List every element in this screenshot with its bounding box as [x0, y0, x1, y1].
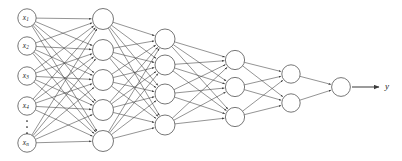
connection-edge — [36, 46, 91, 49]
connection-edge — [172, 46, 228, 109]
connection-edge — [174, 92, 226, 120]
ellipsis-dot — [26, 126, 28, 128]
connection-edge — [33, 28, 95, 99]
connection-edge — [35, 115, 92, 140]
neuron-circle — [93, 40, 114, 61]
neuron-circle — [332, 78, 351, 97]
neuron-circle — [155, 84, 175, 104]
connection-edge — [110, 74, 158, 133]
connection-edge — [175, 68, 225, 84]
neuron-circle — [93, 70, 114, 91]
connection-edge — [32, 29, 97, 135]
ellipsis-dot — [26, 132, 28, 134]
neuron-node — [225, 50, 244, 69]
connection-edge — [35, 50, 92, 76]
connection-edge — [175, 61, 224, 65]
connection-edge — [112, 56, 156, 88]
neuron-node — [93, 9, 114, 30]
neural-network-canvas: x1x2x3x4xn y — [0, 0, 402, 161]
connection-edge — [244, 105, 281, 114]
connection-edge — [300, 90, 331, 100]
neuron-node — [155, 115, 175, 135]
neuron-node — [93, 40, 114, 61]
neuron-node: x1 — [18, 9, 36, 27]
output-label: y — [384, 81, 389, 91]
ellipsis-dot — [26, 120, 28, 122]
connection-edge — [35, 110, 92, 136]
connection-edge — [175, 88, 225, 93]
neuron-circle — [282, 65, 300, 83]
output-arrow: y — [352, 81, 389, 91]
neuron-node — [282, 94, 300, 112]
connection-edge — [113, 22, 155, 35]
connection-edge — [36, 23, 92, 43]
neuron-node: x4 — [18, 97, 36, 115]
input-ellipsis — [26, 120, 28, 134]
neuron-circle — [155, 29, 175, 49]
neuron-circle — [225, 50, 244, 69]
connection-edge — [175, 118, 225, 124]
connection-edge — [33, 59, 96, 136]
neuron-circle — [155, 115, 175, 135]
neuron-node: xn — [18, 134, 36, 152]
connection-edge — [244, 76, 281, 85]
neuron-node — [282, 65, 300, 83]
neuron-circle — [93, 100, 114, 121]
neuron-node — [332, 78, 351, 97]
neuron-node — [155, 55, 175, 75]
neuron-circle — [155, 55, 175, 75]
connection-edge — [175, 97, 225, 114]
connection-edge — [35, 80, 92, 106]
neuron-node — [225, 107, 244, 126]
connection-edge — [112, 45, 156, 74]
neuron-node — [93, 131, 114, 152]
neuron-node: x2 — [18, 37, 36, 55]
neuron-node — [225, 77, 244, 96]
neuron-node — [93, 70, 114, 91]
connection-edge — [111, 101, 156, 135]
neuron-node — [155, 84, 175, 104]
neuron-node — [155, 29, 175, 49]
connection-edge — [36, 106, 91, 109]
neuron-circle — [282, 94, 300, 112]
connection-edge — [113, 52, 154, 62]
connection-edge — [244, 62, 281, 71]
connection-edge — [175, 42, 225, 57]
neuron-circle — [93, 9, 114, 30]
neuron-node: x3 — [18, 67, 36, 85]
connection-edge — [300, 76, 331, 84]
connection-edge — [36, 18, 91, 19]
neuron-circle — [93, 131, 114, 152]
neuron-node — [93, 100, 114, 121]
connection-edge — [108, 48, 159, 132]
connection-edge — [113, 128, 154, 139]
connection-edge — [110, 47, 158, 102]
neuron-circle — [225, 107, 244, 126]
neuron-circle — [225, 77, 244, 96]
connection-edge — [36, 141, 91, 142]
neural-network-diagram: x1x2x3x4xn y — [0, 0, 402, 161]
